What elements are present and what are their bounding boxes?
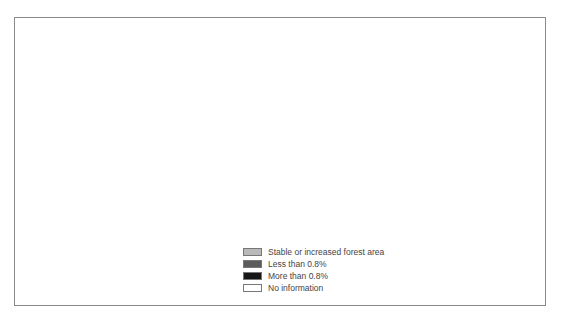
legend-label: Less than 0.8%	[268, 258, 327, 270]
legend: Stable or increased forest area Less tha…	[243, 246, 384, 294]
swatch-less	[243, 260, 262, 268]
swatch-stable	[243, 248, 262, 256]
swatch-more	[243, 272, 262, 280]
swatch-none	[243, 284, 262, 292]
legend-item-stable: Stable or increased forest area	[243, 246, 384, 258]
legend-item-less: Less than 0.8%	[243, 258, 384, 270]
legend-item-none: No information	[243, 282, 384, 294]
legend-label: More than 0.8%	[268, 270, 328, 282]
legend-label: No information	[268, 282, 323, 294]
legend-item-more: More than 0.8%	[243, 270, 384, 282]
legend-label: Stable or increased forest area	[268, 246, 384, 258]
